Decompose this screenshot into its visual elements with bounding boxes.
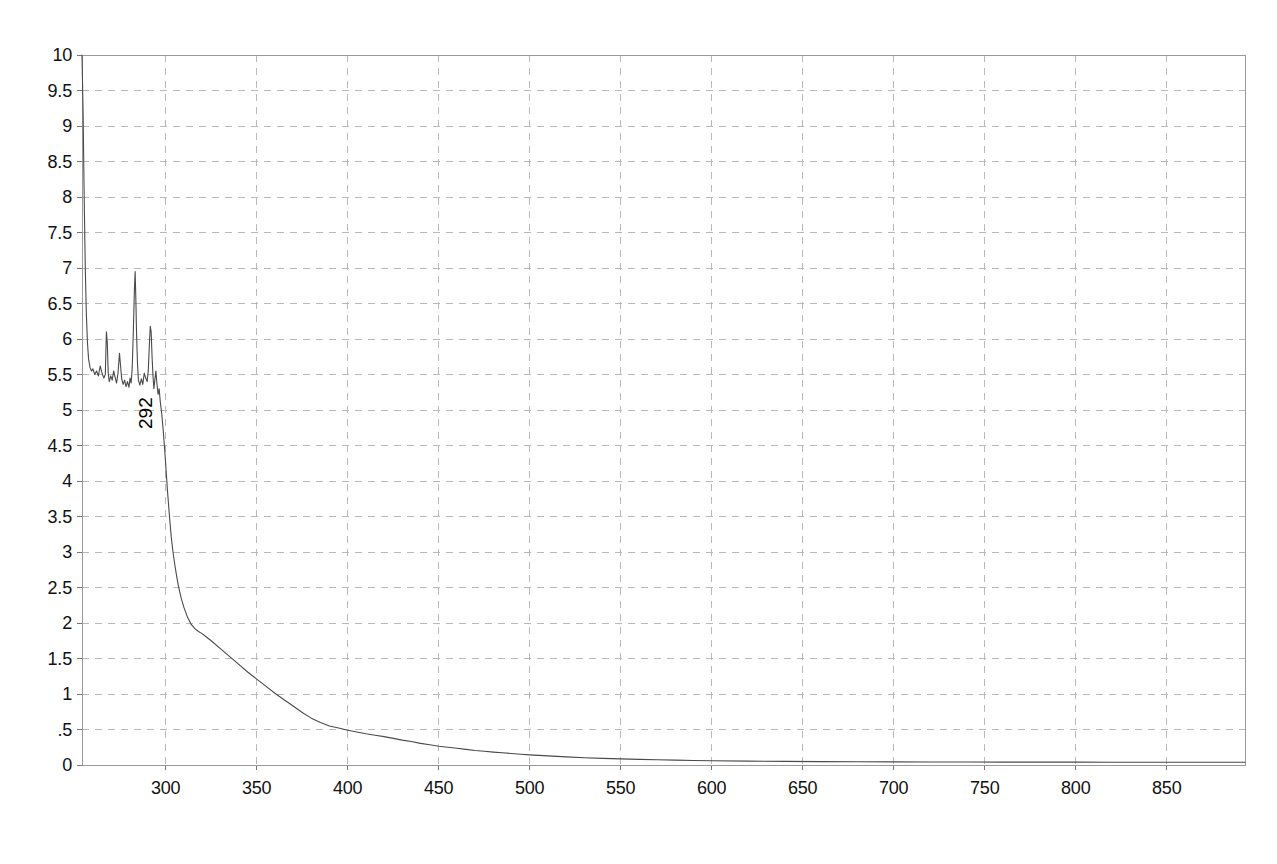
x-axis-tick-label: 600 — [682, 779, 742, 797]
x-axis-tick-label: 800 — [1046, 779, 1106, 797]
x-axis-tick-label: 650 — [773, 779, 833, 797]
y-axis-tick-label: 1.5 — [26, 650, 72, 668]
y-axis-tick-label: 6 — [26, 330, 72, 348]
y-axis-tick-label: 2 — [26, 614, 72, 632]
uv-vis-spectrum-chart: 0.511.522.533.544.555.566.577.588.599.51… — [0, 0, 1277, 864]
y-axis-tick-label: 6.5 — [26, 295, 72, 313]
plot-area — [0, 0, 1277, 864]
y-axis-tick-label: 7 — [26, 259, 72, 277]
x-axis-tick-label: 550 — [591, 779, 651, 797]
axis-ticks — [77, 55, 1167, 770]
y-axis-tick-label: 5.5 — [26, 366, 72, 384]
y-axis-tick-label: 10 — [26, 46, 72, 64]
y-axis-tick-label: 2.5 — [26, 579, 72, 597]
y-axis-tick-label: 3.5 — [26, 508, 72, 526]
y-axis-tick-label: 3 — [26, 543, 72, 561]
x-axis-tick-label: 850 — [1137, 779, 1197, 797]
y-axis-tick-label: 1 — [26, 685, 72, 703]
y-axis-tick-label: 5 — [26, 401, 72, 419]
x-axis-tick-label: 300 — [136, 779, 196, 797]
gridlines — [82, 55, 1245, 765]
y-axis-tick-label: 4 — [26, 472, 72, 490]
y-axis-tick-label: 7.5 — [26, 224, 72, 242]
x-axis-tick-label: 750 — [955, 779, 1015, 797]
x-axis-tick-label: 450 — [409, 779, 469, 797]
x-axis-tick-label: 700 — [864, 779, 924, 797]
y-axis-tick-label: 9.5 — [26, 82, 72, 100]
y-axis-tick-label: 0 — [26, 756, 72, 774]
y-axis-tick-label: 4.5 — [26, 437, 72, 455]
y-axis-tick-label: .5 — [26, 721, 72, 739]
y-axis-tick-label: 9 — [26, 117, 72, 135]
peak-label-292: 292 — [135, 397, 157, 429]
x-axis-tick-label: 400 — [318, 779, 378, 797]
x-axis-tick-label: 350 — [227, 779, 287, 797]
y-axis-tick-label: 8 — [26, 188, 72, 206]
y-axis-tick-label: 8.5 — [26, 153, 72, 171]
x-axis-tick-label: 500 — [500, 779, 560, 797]
